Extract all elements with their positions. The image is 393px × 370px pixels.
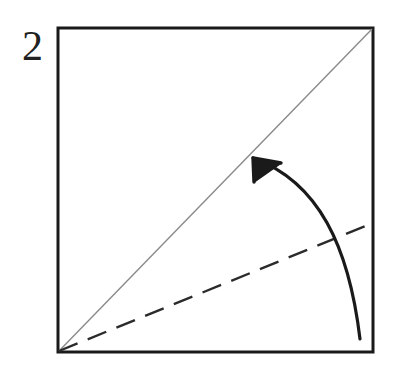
origami-step-figure: 2 xyxy=(0,0,393,370)
diagram-canvas: 2 xyxy=(0,0,393,370)
step-number-label: 2 xyxy=(22,23,43,69)
